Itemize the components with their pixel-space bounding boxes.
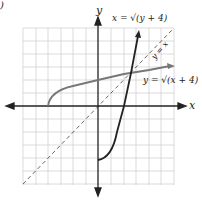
y-axis-label: y xyxy=(95,4,103,17)
x-axis-label: x xyxy=(189,99,196,112)
curve-y-sqrt-x-plus-4 xyxy=(48,66,170,106)
curve2-label: x = √(y + 4) xyxy=(112,13,168,23)
curve1-label: y = √(x + 4) xyxy=(142,75,199,85)
panel-label: ) xyxy=(0,0,4,10)
graph: ) y x x = √(y + 4) y = √(x + 4) y = x xyxy=(0,0,202,200)
curve-x-sqrt-y-plus-4 xyxy=(98,36,138,160)
